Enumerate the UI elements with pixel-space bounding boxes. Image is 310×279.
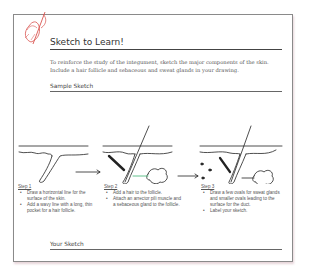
intro-text: To reinforce the study of the integument…	[50, 58, 286, 74]
pencil-sketch-icon	[19, 4, 53, 46]
step1-drawing	[19, 146, 88, 182]
step-bullets: Draw a few ovals for sweat glands and sm…	[201, 190, 281, 214]
bullet: Add a wavy line with a long, thin pocket…	[27, 202, 98, 214]
your-sketch-heading: Your Sketch	[50, 241, 282, 250]
step-3: Step 3 Draw a few ovals for sweat glands…	[201, 184, 281, 214]
page-title: Sketch to Learn!	[50, 37, 282, 50]
sample-sketch-diagram	[0, 104, 310, 184]
step-1: Step 1 Draw a horizontal line for the su…	[18, 184, 98, 214]
step3-drawing	[196, 126, 282, 184]
sample-sketch-heading: Sample Sketch	[50, 83, 282, 92]
bullet: Attach an arrector pili muscle and a seb…	[113, 196, 184, 208]
step-bullets: Draw a horizontal line for the surface o…	[18, 190, 98, 214]
step-bullets: Add a hair to the follicle. Attach an ar…	[104, 190, 184, 208]
step2-drawing	[103, 126, 172, 184]
bullet: Draw a horizontal line for the surface o…	[27, 190, 98, 202]
bullet: Label your sketch.	[210, 208, 281, 214]
bullet: Draw a few ovals for sweat glands and sm…	[210, 190, 281, 208]
step-2: Step 2 Add a hair to the follicle. Attac…	[104, 184, 184, 208]
